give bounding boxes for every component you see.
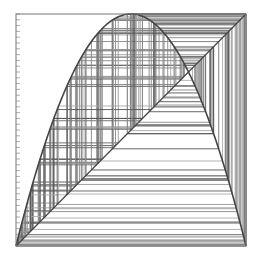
- left-axis-ticks: [16, 14, 20, 246]
- cobweb-diagram: [0, 0, 258, 261]
